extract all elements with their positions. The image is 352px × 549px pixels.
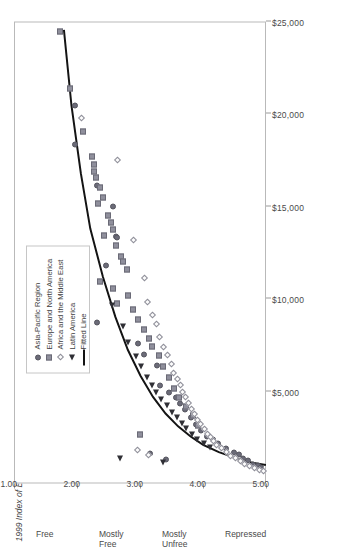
data-point [183,425,189,431]
legend-item: Africa and the Middle East [55,253,67,365]
data-point [154,362,160,368]
data-point [149,382,155,388]
data-point [105,212,111,218]
data-point [160,363,166,369]
fitted-line [64,29,266,464]
score-axis-label: 3.00 [126,478,143,488]
data-point [164,402,170,408]
score-axis-label: 5.00 [252,478,269,488]
data-point [93,174,99,180]
value-axis-tick [266,112,271,113]
data-point [171,385,177,391]
data-point [160,459,166,465]
data-point [110,285,116,291]
data-point [135,316,141,322]
data-point [138,364,144,370]
data-point [157,382,163,388]
data-point [110,226,116,232]
value-axis-label: $10,000 [272,294,304,304]
legend-marker-open-diamond-icon [58,349,63,365]
legend-item-label: Asia-Pacific Region [33,282,42,349]
data-point [207,444,213,450]
data-point [91,168,97,174]
value-axis-label: $25,000 [272,17,304,27]
score-band-label: Free [36,529,53,539]
legend-marker-filled-circle-icon [35,349,41,365]
score-axis-label: 1.00 [0,478,17,488]
legend-item: Fitted Line [78,253,90,365]
score-axis-label: 4.00 [189,478,206,488]
data-point [120,258,126,264]
value-axis-tick [266,20,271,21]
data-point [158,396,164,402]
score-axis-label: 2.00 [63,478,80,488]
data-point [72,141,78,147]
chart-figure: 1999 Index of Economic Freedom Score $5,… [0,0,352,549]
data-point [125,292,131,298]
data-point [133,353,139,359]
value-axis-tick [266,390,271,391]
score-band-label: MostlyUnfree [162,529,188,548]
legend-item-label: Fitted Line [79,313,88,349]
value-axis-label: $15,000 [272,202,304,212]
data-point [201,440,207,446]
data-point [135,340,141,346]
data-point [130,306,136,312]
data-point [97,184,103,190]
legend-marker-line-icon [83,349,85,365]
score-band-label: Repressed [225,529,266,539]
data-point [125,339,131,345]
data-point [95,200,101,206]
legend-item: Latin America [67,253,79,365]
data-point [260,467,267,474]
data-point [91,161,97,167]
data-point [194,436,200,442]
legend-item: Asia-Pacific Region [32,253,44,365]
data-point [97,278,103,284]
data-point [108,219,114,225]
data-point [146,335,152,341]
data-point [72,102,78,108]
data-point [149,343,155,349]
data-point [109,302,115,308]
chart-legend: Asia-Pacific RegionEurope and North Amer… [26,245,90,373]
data-point [114,234,120,240]
data-point [89,153,95,159]
data-point [57,28,63,34]
data-point [103,262,109,268]
value-axis-label: $5,000 [272,387,299,397]
value-axis-tick [266,205,271,206]
legend-marker-filled-square-icon [46,349,52,365]
data-point [101,232,107,238]
data-point [113,242,119,248]
legend-marker-filled-triangle-icon [69,349,75,365]
data-point [110,203,116,209]
data-point [144,374,150,380]
data-point [117,455,123,461]
data-point [67,85,73,91]
data-point [124,266,130,272]
legend-item-label: Africa and the Middle East [56,259,65,349]
value-axis-label: $20,000 [272,109,304,119]
legend-item-label: Europe and North America [45,258,54,349]
data-point [153,389,159,395]
data-point [120,323,126,329]
data-point [156,352,162,358]
legend-item: Europe and North America [44,253,56,365]
data-point [137,431,143,437]
data-point [94,319,100,325]
value-axis-tick [266,297,271,298]
score-band-label: MostlyFree [99,529,124,548]
legend-item-label: Latin America [68,302,77,349]
data-point [141,326,147,332]
data-point [80,128,86,134]
